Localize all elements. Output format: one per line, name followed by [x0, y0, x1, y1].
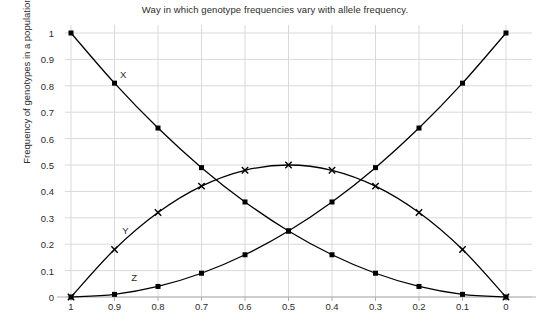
series-label-z: Z	[131, 272, 137, 283]
marker-square	[243, 199, 248, 204]
marker-square	[199, 165, 204, 170]
marker-square	[156, 126, 161, 131]
x-tick-label: 0.3	[361, 301, 391, 312]
x-tick-label: 0.7	[187, 301, 217, 312]
marker-square	[330, 199, 335, 204]
marker-square	[112, 81, 117, 86]
x-tick-label: 0.4	[317, 301, 347, 312]
x-tick-label: 0.8	[143, 301, 173, 312]
marker-square	[373, 165, 378, 170]
x-tick-label: 0.6	[230, 301, 260, 312]
x-tick-label: 1	[56, 301, 86, 312]
plot-area	[0, 0, 550, 320]
chart-container: Way in which genotype frequencies vary w…	[0, 0, 550, 320]
marker-square	[69, 295, 74, 300]
marker-square	[417, 126, 422, 131]
marker-square	[156, 284, 161, 289]
series-label-x: X	[120, 68, 126, 79]
grid-lines	[65, 25, 532, 297]
marker-square	[460, 81, 465, 86]
marker-square	[460, 292, 465, 297]
marker-square	[199, 271, 204, 276]
x-tick-label: 0.5	[274, 301, 304, 312]
marker-square	[417, 284, 422, 289]
series-label-y: Y	[122, 224, 128, 235]
x-tick-label: 0.1	[448, 301, 478, 312]
marker-square	[373, 271, 378, 276]
marker-square	[112, 292, 117, 297]
marker-square	[243, 252, 248, 257]
marker-square	[504, 31, 509, 36]
marker-square	[69, 31, 74, 36]
marker-square	[330, 252, 335, 257]
x-tick-label: 0.2	[404, 301, 434, 312]
marker-square	[286, 229, 291, 234]
x-tick-label: 0.9	[100, 301, 130, 312]
x-tick-label: 0	[491, 301, 521, 312]
